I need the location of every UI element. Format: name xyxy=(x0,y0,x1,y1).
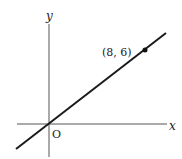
plot-canvas xyxy=(0,0,182,159)
point-label: (8, 6) xyxy=(102,47,132,58)
origin-label: O xyxy=(52,129,61,140)
point-marker xyxy=(143,48,148,53)
x-axis-label: x xyxy=(169,120,176,132)
y-axis-label: y xyxy=(46,10,53,22)
coordinate-plot: y x O (8, 6) xyxy=(0,0,182,159)
